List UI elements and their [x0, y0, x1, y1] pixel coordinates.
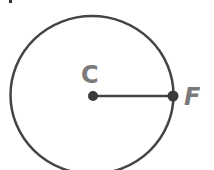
point-f	[168, 91, 179, 102]
circle-diagram: C F	[0, 0, 214, 170]
label-c: C	[81, 61, 99, 89]
center-point-c	[88, 91, 98, 101]
label-f: F	[184, 83, 201, 111]
corner-mark	[9, 0, 12, 3]
